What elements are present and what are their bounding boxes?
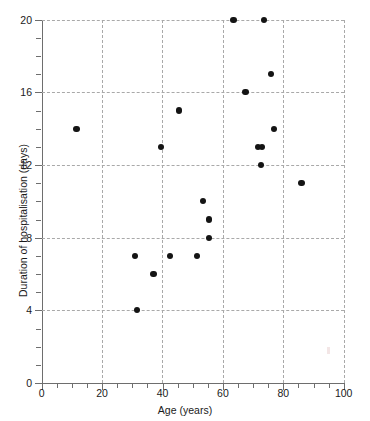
data-point — [258, 162, 264, 168]
y-tick-18 — [36, 56, 41, 57]
gridline-x-60 — [223, 20, 224, 383]
x-tick-30 — [132, 383, 133, 388]
vertical-gridlines — [42, 20, 344, 383]
y-tick-label-20: 20 — [2, 15, 32, 26]
y-tick-11 — [36, 183, 41, 184]
data-point — [176, 107, 182, 113]
data-point — [298, 180, 304, 186]
y-tick-6 — [36, 274, 41, 275]
x-tick-10 — [72, 383, 73, 388]
data-point — [206, 216, 212, 222]
gridline-x-40 — [162, 20, 163, 383]
data-point — [261, 17, 267, 23]
x-tick-label-40: 40 — [143, 388, 183, 399]
y-tick-4 — [35, 310, 42, 311]
x-tick-label-60: 60 — [203, 388, 243, 399]
y-tick-16 — [35, 92, 42, 93]
scatter-chart: 048121620 020406080100 Age (years) Durat… — [0, 0, 370, 421]
y-tick-5 — [36, 292, 41, 293]
y-tick-label-0: 0 — [2, 378, 32, 389]
y-tick-1 — [36, 365, 41, 366]
y-tick-7 — [36, 256, 41, 257]
data-point — [230, 17, 236, 23]
y-tick-0 — [35, 383, 42, 384]
y-tick-3 — [36, 329, 41, 330]
y-tick-17 — [36, 74, 41, 75]
x-tick-label-100: 100 — [324, 388, 364, 399]
y-tick-label-4: 4 — [2, 305, 32, 316]
x-tick-70 — [253, 383, 254, 388]
x-tick-50 — [193, 383, 194, 388]
y-tick-19 — [36, 38, 41, 39]
y-tick-8 — [35, 238, 42, 239]
data-point — [150, 271, 156, 277]
y-tick-20 — [35, 20, 42, 21]
y-tick-2 — [36, 347, 41, 348]
data-point — [73, 126, 79, 132]
y-axis-title: Duration of hospitalisation (days) — [17, 144, 29, 297]
gridline-x-100 — [344, 20, 345, 383]
y-tick-label-16: 16 — [2, 87, 32, 98]
y-tick-15 — [36, 111, 41, 112]
y-tick-13 — [36, 147, 41, 148]
data-point — [158, 144, 164, 150]
x-tick-label-20: 20 — [82, 388, 122, 399]
y-tick-10 — [36, 201, 41, 202]
x-tick-90 — [314, 383, 315, 388]
y-tick-14 — [36, 129, 41, 130]
gridline-x-80 — [283, 20, 284, 383]
x-axis-title: Age (years) — [0, 404, 370, 416]
y-tick-9 — [36, 220, 41, 221]
stray-artifact — [327, 347, 330, 354]
gridline-x-20 — [102, 20, 103, 383]
y-tick-12 — [35, 165, 42, 166]
x-tick-label-80: 80 — [263, 388, 303, 399]
x-tick-label-0: 0 — [22, 388, 62, 399]
data-point — [167, 253, 173, 259]
